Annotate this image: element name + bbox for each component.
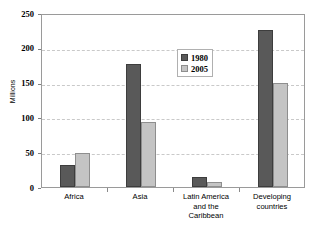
bar-1980-0 xyxy=(60,165,75,187)
y-tick-label: 50 xyxy=(0,149,34,158)
bar-2005-0 xyxy=(75,153,90,187)
y-tick-label: 100 xyxy=(0,114,34,123)
x-axis-label-2: Latin America and the Caribbean xyxy=(173,192,239,221)
legend-label-1980: 1980 xyxy=(191,53,208,63)
bar-1980-3 xyxy=(258,30,273,187)
y-tick-label: 250 xyxy=(0,10,34,19)
bar-1980-1 xyxy=(126,64,141,187)
y-tick-label: 200 xyxy=(0,44,34,53)
y-tick-label: 150 xyxy=(0,79,34,88)
x-axis-label-3: Developing countries xyxy=(239,192,305,211)
legend-label-2005: 2005 xyxy=(191,64,208,74)
x-axis-label-1: Asia xyxy=(107,192,173,202)
bar-2005-2 xyxy=(207,182,222,187)
x-axis-label-0: Africa xyxy=(41,192,107,202)
bar-1980-2 xyxy=(192,177,207,187)
x-axis-category-labels: AfricaAsiaLatin America and the Caribbea… xyxy=(41,192,305,230)
legend-swatch-icon-1980 xyxy=(181,54,188,61)
bar-2005-3 xyxy=(273,83,288,187)
y-axis-tick-labels: 050100150200250 xyxy=(0,0,38,230)
bars-layer xyxy=(42,15,304,187)
plot-area xyxy=(41,14,305,188)
y-tick-label: 0 xyxy=(0,184,34,193)
y-tick-mark xyxy=(38,188,41,189)
legend-item-1980: 1980 xyxy=(181,52,208,63)
bar-2005-1 xyxy=(141,122,156,187)
legend-item-2005: 2005 xyxy=(181,63,208,74)
legend-swatch-icon-2005 xyxy=(181,65,188,72)
legend: 1980 2005 xyxy=(177,49,213,77)
bar-chart: Millions 050100150200250 1980 2005 Afric… xyxy=(0,0,313,230)
